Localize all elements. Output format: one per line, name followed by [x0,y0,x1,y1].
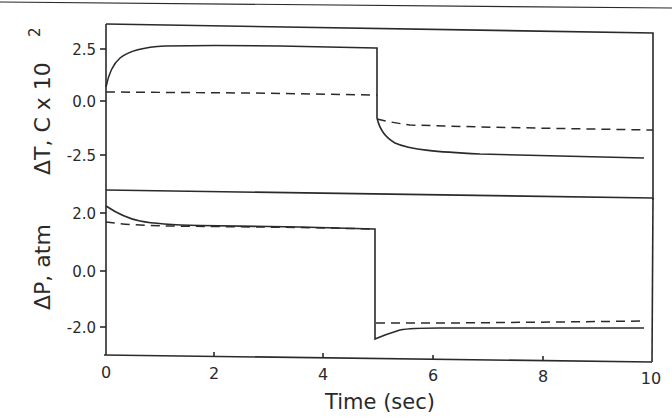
bottom-panel-top-line [106,190,653,198]
top-ylabel-text: ΔT, C x 10 [30,62,55,175]
top-solid-curve [106,46,644,159]
top-ytick-label: 0.0 [72,93,96,111]
top-ytick-label: -2.5 [67,147,96,165]
x-axis-label: Time (sec) [324,390,435,414]
xtick-label: 8 [538,367,548,386]
top-ytick-label: 2.5 [72,41,96,59]
bottom-ytick-label: 2.0 [72,205,96,223]
chart-figure: 2.5 0.0 -2.5 ΔT, C x 10 2 2.0 0.0 -2.0 Δ… [0,0,672,420]
bottom-ylabel-text: ΔP, atm [30,224,55,310]
xtick-label: 2 [209,364,219,383]
bottom-right-border [652,198,653,362]
xtick-label: 0 [101,363,111,382]
xtick-label: 6 [428,366,438,385]
top-panel-frame [106,24,653,200]
top-ylabel-exponent: 2 [26,27,44,37]
bottom-ytick-label: 0.0 [72,263,96,281]
bottom-ylabel: ΔP, atm [30,224,55,310]
x-axis [104,355,652,362]
bottom-ytick-label: -2.0 [67,319,96,337]
top-panel: 2.5 0.0 -2.5 ΔT, C x 10 2 [26,24,653,200]
xtick-label: 10 [641,369,661,388]
top-ylabel: ΔT, C x 10 2 [26,27,55,175]
bottom-panel: 2.0 0.0 -2.0 ΔP, atm 0 2 4 6 8 10 Time (… [30,188,661,414]
xtick-label: 4 [318,365,328,384]
scan-edge-line [0,2,672,8]
